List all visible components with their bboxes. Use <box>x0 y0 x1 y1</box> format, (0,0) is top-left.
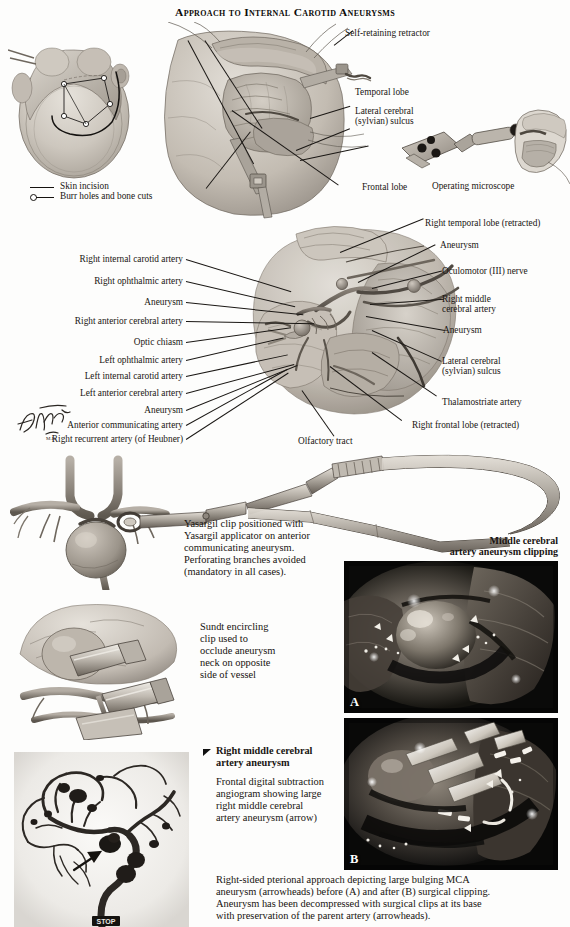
svg-text:M.D.: M.D. <box>46 436 57 441</box>
angiogram-body-line1: Frontal digital subtraction <box>216 776 324 788</box>
caption-sundt-line1: Sundt encircling <box>200 621 268 633</box>
caption-sundt-line2: clip used to <box>200 633 248 645</box>
figure-circle-of-willis-exposure <box>238 218 466 430</box>
label-aneurysm-right-1: Aneurysm <box>440 240 479 251</box>
footer-caption-line4: with preservation of the parent artery (… <box>216 910 430 922</box>
svg-text:STOP: STOP <box>97 918 116 925</box>
heading-right-mca-aneurysm-line1: Right middle cerebral <box>216 746 312 757</box>
label-thalamostriate-artery: Thalamostriate artery <box>442 397 522 408</box>
label-olfactory-tract: Olfactory tract <box>298 436 352 447</box>
footer-caption-line3: Aneurysm has been decompressed with surg… <box>216 898 482 910</box>
photo-a-label: A <box>350 695 359 710</box>
angiogram-body-line3: right middle cerebral <box>216 800 303 812</box>
label-optic-chiasm: Optic chiasm <box>48 337 183 348</box>
label-right-temporal-lobe-retracted: Right temporal lobe (retracted) <box>425 218 540 229</box>
label-right-internal-carotid-artery: Right internal carotid artery <box>48 254 183 265</box>
label-aneurysm-left-1: Aneurysm <box>48 297 183 308</box>
label-lateral-cerebral-sulcus-mid-line2: (sylvian) sulcus <box>442 366 501 377</box>
heading-mca-clipping-line1: Middle cerebral <box>0 536 558 547</box>
artist-signature: M.D. <box>16 396 74 442</box>
caption-sundt-line3: occlude aneurysm <box>200 645 275 657</box>
angiogram-body-line4-text: artery aneurysm (arrow) <box>216 812 317 823</box>
label-aneurysm-right-2: Aneurysm <box>443 325 482 336</box>
page-title: Approach to Internal Carotid Aneurysms <box>0 6 570 18</box>
label-left-internal-carotid-artery: Left internal carotid artery <box>42 371 183 382</box>
legend-burr-hole-line <box>36 197 54 198</box>
legend-skin-incision-marker <box>30 187 54 188</box>
label-right-anterior-cerebral-artery: Right anterior cerebral artery <box>40 316 183 327</box>
label-self-retaining-retractor: Self-retaining retractor <box>345 28 430 39</box>
triangle-bullet-icon <box>203 749 211 756</box>
caption-sundt-line4: neck on opposite <box>200 657 270 669</box>
angiogram-body-line2: angiogram showing large <box>216 788 321 800</box>
caption-yasargil-line5: (mandatory in all cases). <box>184 566 286 578</box>
photo-intraoperative-before-clipping: A <box>344 561 558 713</box>
angiogram-body-line4: artery aneurysm (arrow) <box>216 812 317 824</box>
label-temporal-lobe: Temporal lobe <box>355 87 409 98</box>
label-right-ophthalmic-artery: Right ophthalmic artery <box>48 276 183 287</box>
netter-plate: Approach to Internal Carotid Aneurysms <box>0 0 570 927</box>
footer-caption-line1: Right-sided pterional approach depicting… <box>216 874 470 886</box>
label-lateral-cerebral-sulcus-mid-line1: Lateral cerebral <box>442 356 501 367</box>
figure-craniotomy-skull <box>8 28 148 183</box>
figure-operative-exposure <box>150 22 380 222</box>
figure-sundt-encircling-clip <box>14 600 199 740</box>
label-left-ophthalmic-artery: Left ophthalmic artery <box>48 355 183 366</box>
label-right-middle-cerebral-artery-line2: cerebral artery <box>442 304 496 315</box>
caption-sundt-line5: side of vessel <box>200 669 256 681</box>
legend-skin-incision-label: Skin incision <box>60 181 109 192</box>
photo-digital-subtraction-angiogram: STOP <box>14 752 189 927</box>
heading-mca-clipping-line2: artery aneurysm clipping <box>0 547 558 558</box>
photo-intraoperative-after-clipping: B <box>344 718 558 870</box>
footer-caption-line2: aneurysm (arrowheads) before (A) and aft… <box>216 886 490 898</box>
photo-b-label: B <box>350 852 358 867</box>
caption-yasargil-line1: Yasargil clip positioned with <box>184 518 303 530</box>
heading-right-mca-aneurysm-line2: artery aneurysm <box>216 758 290 769</box>
label-right-frontal-lobe-retracted: Right frontal lobe (retracted) <box>412 420 519 431</box>
legend-burr-holes-label: Burr holes and bone cuts <box>60 191 152 202</box>
label-right-middle-cerebral-artery-line1: Right middle <box>442 294 491 305</box>
label-oculomotor-nerve: Oculomotor (III) nerve <box>442 266 528 277</box>
figure-operating-microscope <box>398 108 570 184</box>
